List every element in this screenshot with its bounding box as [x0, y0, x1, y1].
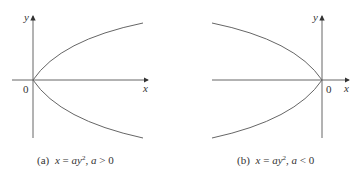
- y-axis-label: y: [23, 11, 29, 23]
- caption-a: (a) x = ay2, a > 0: [37, 154, 114, 167]
- parabola-curve: [33, 23, 143, 138]
- parabola-curve: [212, 23, 322, 138]
- x-axis-label: x: [142, 82, 148, 94]
- origin-label: 0: [326, 83, 332, 95]
- caption-b: (b) x = ay2, a < 0: [237, 154, 315, 167]
- panel-b: y x 0 (b) x = ay2, a < 0: [212, 11, 349, 167]
- origin-label: 0: [23, 83, 29, 95]
- x-axis-label: x: [343, 82, 349, 94]
- parabola-diagram: y x 0 (a) x = ay2, a > 0 y x 0 (b) x = a…: [0, 0, 360, 178]
- panel-a: y x 0 (a) x = ay2, a > 0: [12, 11, 148, 167]
- y-axis-label: y: [312, 11, 318, 23]
